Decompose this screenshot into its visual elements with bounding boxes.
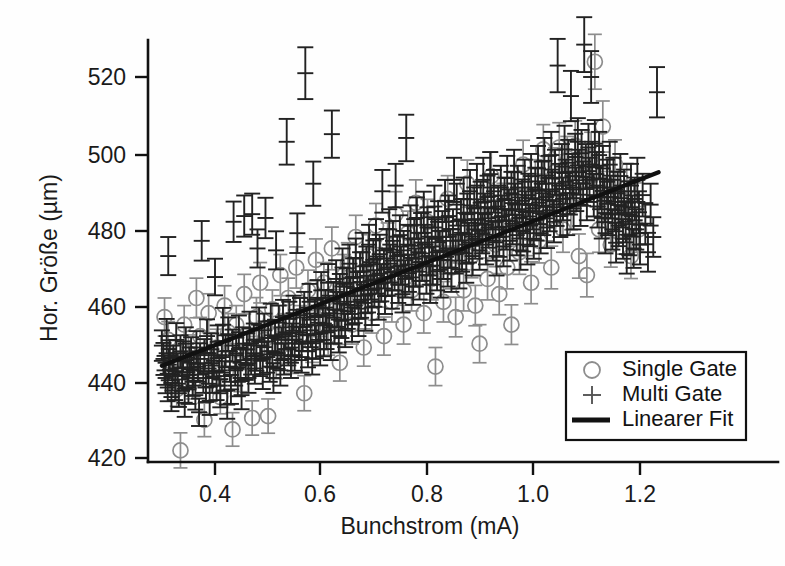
data-point [300,270,315,310]
data-point [504,305,519,345]
x-tick-label: 0.8 [411,481,443,507]
y-tick-label: 500 [88,142,126,168]
data-point [268,231,284,269]
data-point [297,376,312,411]
data-point [428,348,443,386]
y-tick-label: 460 [88,294,126,320]
x-tick-label: 1.0 [517,481,549,507]
data-point [550,39,566,92]
data-point [297,47,313,99]
data-point [324,111,340,158]
y-tick-label: 420 [88,445,126,471]
legend-layer[interactable]: Single GateMulti GateLinearer Fit [566,352,746,440]
x-tick-label: 1.2 [624,481,656,507]
data-point [332,344,347,381]
x-axis-label: Bunchstrom (mA) [341,513,520,539]
data-point [468,285,483,325]
data-point [576,17,592,72]
legend-label: Single Gate [622,356,737,381]
data-point [279,119,295,165]
x-tick-label: 0.6 [304,481,336,507]
data-point [563,71,579,121]
y-tick-label: 520 [88,64,126,90]
data-point [649,67,665,117]
data-point [194,221,210,261]
chart-figure: 4204404604805005200.40.60.81.01.2Bunchst… [0,0,785,566]
data-point [587,34,602,89]
data-point [398,115,414,161]
data-point [571,234,586,278]
data-point [583,51,599,103]
data-point [472,325,487,363]
legend-label: Linearer Fit [622,406,733,431]
data-point [207,259,223,296]
data-point [305,162,321,206]
data-point [245,401,260,435]
data-point [160,237,176,275]
legend-label: Multi Gate [622,381,722,406]
y-tick-label: 480 [88,218,126,244]
x-tick-label: 0.4 [199,481,231,507]
y-tick-label: 440 [88,370,126,396]
scatter-plot-svg: 4204404604805005200.40.60.81.01.2Bunchst… [0,0,785,566]
data-point [237,274,252,314]
data-point [261,399,276,433]
data-point [524,262,539,304]
data-point [579,253,594,296]
data-point [492,274,507,315]
y-axis-label: Hor. Größe (µm) [36,174,62,342]
